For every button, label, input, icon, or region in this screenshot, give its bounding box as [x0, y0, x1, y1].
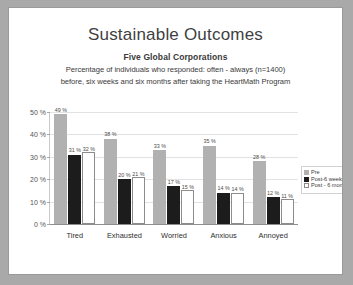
y-axis-tick — [47, 224, 50, 225]
bar[interactable]: 32 % — [82, 152, 95, 224]
x-axis-category-label: Worried — [161, 231, 187, 240]
bar[interactable]: 14 % — [217, 193, 230, 224]
bar-value-label: 20 % — [118, 173, 130, 178]
y-axis-tick-label: 50 % — [30, 109, 46, 116]
bar-slot: 38 % — [104, 112, 117, 224]
bar-slot: 15 % — [181, 112, 194, 224]
bar-slot: 31 % — [68, 112, 81, 224]
y-axis-tick-label: 20 % — [30, 176, 46, 183]
y-axis-tick-label: 30 % — [30, 153, 46, 160]
slide-canvas: Sustainable Outcomes Five Global Corpora… — [8, 7, 343, 275]
x-axis-category-label: Annoyed — [259, 231, 288, 240]
bar-value-label: 14 % — [217, 186, 229, 191]
bar-value-label: 32 % — [83, 147, 95, 152]
bar-slot: 12 % — [267, 112, 280, 224]
bar-value-label: 28 % — [253, 155, 265, 160]
bar[interactable]: 49 % — [54, 114, 67, 224]
bar-group: 38 %20 %21 %Exhausted — [100, 112, 150, 224]
legend-item[interactable]: Pre — [304, 170, 343, 176]
x-axis-category-label: Exhausted — [107, 231, 142, 240]
bar[interactable]: 20 % — [118, 179, 131, 224]
x-axis-category-label: Tired — [67, 231, 84, 240]
bar-groups: 49 %31 %32 %Tired38 %20 %21 %Exhausted33… — [50, 112, 298, 224]
subtitle-block: Five Global Corporations Percentage of i… — [9, 52, 342, 86]
legend-swatch-icon — [304, 170, 309, 175]
bar-group: 33 %17 %15 %Worried — [149, 112, 199, 224]
bar[interactable]: 31 % — [68, 155, 81, 224]
bar[interactable]: 14 % — [231, 193, 244, 224]
bar-value-label: 11 % — [281, 194, 293, 199]
bar-group: 35 %14 %14 %Anxious — [199, 112, 249, 224]
bar-slot: 33 % — [153, 112, 166, 224]
legend-label: Post - 6 months — [311, 183, 343, 189]
page-title: Sustainable Outcomes — [9, 26, 342, 43]
x-axis-category-label: Anxious — [210, 231, 236, 240]
bar-group: 28 %12 %11 %Annoyed — [248, 112, 298, 224]
bar-group: 49 %31 %32 %Tired — [50, 112, 100, 224]
bar-slot: 20 % — [118, 112, 131, 224]
bar-chart: 0 %10 %20 %30 %40 %50 % 49 %31 %32 %Tire… — [9, 104, 343, 254]
chart-legend: PrePost-6 weeksPost - 6 months — [301, 166, 343, 194]
legend-item[interactable]: Post - 6 months — [304, 183, 343, 189]
legend-swatch-icon — [304, 177, 309, 182]
bar-slot: 28 % — [253, 112, 266, 224]
bar-value-label: 35 % — [203, 139, 215, 144]
bar-slot: 17 % — [167, 112, 180, 224]
bar[interactable]: 33 % — [153, 150, 166, 224]
subtitle-heading: Five Global Corporations — [9, 52, 342, 62]
bar-slot: 14 % — [217, 112, 230, 224]
bar-value-label: 17 % — [168, 180, 180, 185]
bar-slot: 32 % — [82, 112, 95, 224]
bar-value-label: 14 % — [231, 187, 243, 192]
y-axis-tick-label: 40 % — [30, 131, 46, 138]
bar[interactable]: 17 % — [167, 186, 180, 224]
bar[interactable]: 35 % — [203, 146, 216, 224]
bar-value-label: 12 % — [267, 191, 279, 196]
bar[interactable]: 28 % — [253, 161, 266, 224]
bar[interactable]: 21 % — [132, 177, 145, 224]
legend-label: Pre — [311, 170, 320, 176]
bar-value-label: 33 % — [154, 144, 166, 149]
bar-value-label: 15 % — [182, 185, 194, 190]
bar[interactable]: 38 % — [104, 139, 117, 224]
legend-swatch-icon — [304, 183, 309, 188]
bar-value-label: 31 % — [69, 148, 81, 153]
bar-slot: 14 % — [231, 112, 244, 224]
bar-value-label: 21 % — [132, 172, 144, 177]
y-axis-tick-label: 0 % — [34, 221, 46, 228]
bar-slot: 49 % — [54, 112, 67, 224]
bar-slot: 21 % — [132, 112, 145, 224]
plot-area: 0 %10 %20 %30 %40 %50 % 49 %31 %32 %Tire… — [49, 112, 298, 225]
y-axis-tick-label: 10 % — [30, 198, 46, 205]
subtitle-line-1: Percentage of individuals who responded:… — [9, 65, 342, 74]
bar[interactable]: 12 % — [267, 197, 280, 224]
bar[interactable]: 15 % — [181, 190, 194, 224]
bar-slot: 11 % — [281, 112, 294, 224]
bar-value-label: 38 % — [104, 132, 116, 137]
subtitle-line-2: before, six weeks and six months after t… — [9, 77, 342, 86]
bar-value-label: 49 % — [55, 108, 67, 113]
bar[interactable]: 11 % — [281, 199, 294, 224]
bar-slot: 35 % — [203, 112, 216, 224]
